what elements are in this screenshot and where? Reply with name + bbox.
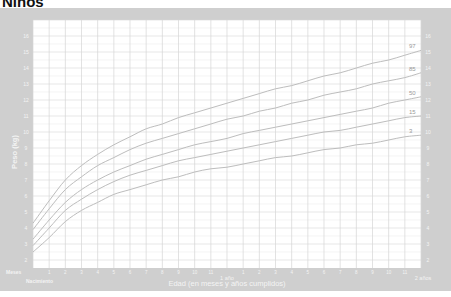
percentile-label-15: 15 <box>409 109 416 115</box>
x-tick: 1 <box>48 270 51 275</box>
x-tick: 4 <box>96 270 99 275</box>
y-tick-left: 12 <box>23 97 29 103</box>
percentile-label-50: 50 <box>409 90 416 96</box>
y-tick-right: 13 <box>425 81 431 87</box>
x-tick: 3 <box>274 270 277 275</box>
percentile-label-97: 97 <box>409 43 416 49</box>
x-tick: 11 <box>402 270 407 275</box>
x-tick: 6 <box>323 270 326 275</box>
percentile-label-85: 85 <box>409 66 416 72</box>
y-tick-right: 2 <box>427 257 430 263</box>
y-tick-left: 6 <box>25 193 28 199</box>
x-tick: 4 <box>290 270 293 275</box>
y-tick-left: 8 <box>25 161 28 167</box>
x-start-label: Nacimiento <box>26 278 53 284</box>
y-tick-left: 7 <box>25 177 28 183</box>
y-tick-right: 5 <box>427 209 430 215</box>
x-unit-label: Meses <box>6 269 22 275</box>
y-tick-right: 4 <box>427 225 430 231</box>
x-tick: 8 <box>161 270 164 275</box>
y-tick-right: 6 <box>427 193 430 199</box>
x-tick: 7 <box>145 270 148 275</box>
y-tick-left: 13 <box>23 81 29 87</box>
y-tick-left: 5 <box>25 209 28 215</box>
y-tick-left: 16 <box>23 33 29 39</box>
y-tick-left: 11 <box>23 113 28 119</box>
x-tick: 10 <box>192 270 198 275</box>
y-axis-title: Peso (kg) <box>10 135 19 169</box>
x-tick: 7 <box>339 270 342 275</box>
x-tick: 11 <box>208 270 213 275</box>
y-tick-left: 14 <box>23 65 29 71</box>
x-tick: 2 <box>64 270 67 275</box>
x-tick: 5 <box>307 270 310 275</box>
x-tick: 10 <box>386 270 392 275</box>
x-tick: 8 <box>355 270 358 275</box>
x-label-two-years: 2 años <box>415 275 432 281</box>
x-axis-title: Edad (en meses y años cumplidos) <box>168 279 286 288</box>
x-tick: 9 <box>371 270 374 275</box>
y-tick-left: 10 <box>23 129 29 135</box>
y-tick-right: 11 <box>425 113 430 119</box>
y-tick-right: 16 <box>425 33 431 39</box>
y-tick-right: 8 <box>427 161 430 167</box>
y-tick-left: 9 <box>25 145 28 151</box>
x-tick: 9 <box>177 270 180 275</box>
y-tick-right: 14 <box>425 65 431 71</box>
y-tick-left: 4 <box>25 225 28 231</box>
x-tick: 6 <box>129 270 132 275</box>
x-tick: 3 <box>80 270 83 275</box>
y-tick-left: 15 <box>23 49 29 55</box>
y-tick-right: 15 <box>425 49 431 55</box>
y-tick-left: 3 <box>25 241 28 247</box>
x-tick: 2 <box>258 270 261 275</box>
y-tick-right: 10 <box>425 129 431 135</box>
y-tick-right: 3 <box>427 241 430 247</box>
x-tick: 1 <box>242 270 245 275</box>
x-tick: 5 <box>113 270 116 275</box>
y-tick-right: 7 <box>427 177 430 183</box>
y-tick-right: 9 <box>427 145 430 151</box>
y-tick-left: 2 <box>25 257 28 263</box>
y-tick-right: 12 <box>425 97 431 103</box>
growth-chart: 9785501532233445566778899101011111212131… <box>0 0 451 297</box>
